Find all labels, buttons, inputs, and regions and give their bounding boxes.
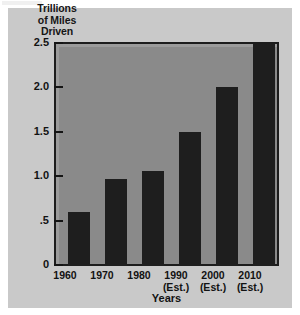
- plot-area: [54, 42, 279, 266]
- y-tick-label-0.5: .5: [40, 214, 49, 226]
- y-tick-1: [54, 220, 63, 222]
- bar-1980: [142, 171, 164, 266]
- y-tick-label-0: 0: [43, 258, 49, 270]
- x-tick-label-1980: 1980: [118, 270, 160, 282]
- bar-1990: [179, 132, 201, 266]
- x-tick-label-1970: 1970: [81, 270, 123, 282]
- x-tick-label-1960: 1960: [44, 270, 86, 282]
- bar-2000: [216, 87, 238, 266]
- y-tick-5: [54, 42, 63, 44]
- x-tick-label-1990: 1990 (Est.): [155, 270, 197, 293]
- y-tick-label-1.5: 1.5: [34, 125, 49, 137]
- x-axis-title: Years: [54, 292, 279, 304]
- y-tick-label-2.0: 2.0: [34, 80, 49, 92]
- y-axis-title: Trillions of Miles Driven: [14, 3, 100, 38]
- bar-1960: [68, 212, 90, 266]
- y-tick-4: [54, 86, 63, 88]
- y-tick-label-2.5: 2.5: [34, 36, 49, 48]
- bar-2010: [253, 44, 275, 266]
- x-tick-label-2010: 2010 (Est.): [229, 270, 271, 293]
- y-tick-2: [54, 175, 63, 177]
- y-tick-3: [54, 131, 63, 133]
- y-tick-0: [54, 264, 63, 266]
- y-tick-label-1.0: 1.0: [34, 169, 49, 181]
- chart-figure: Trillions of Miles Driven 2.5 2.0 1.5 1.…: [0, 0, 300, 315]
- x-tick-label-2000: 2000 (Est.): [192, 270, 234, 293]
- bar-1970: [105, 179, 127, 266]
